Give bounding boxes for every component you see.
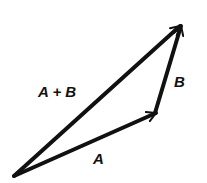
label-b: B [174, 74, 185, 89]
vector-a-arrow [14, 113, 156, 176]
vector-addition-diagram: A + B B A [0, 0, 207, 183]
label-sum: A + B [38, 84, 76, 99]
label-a: A [93, 151, 104, 166]
